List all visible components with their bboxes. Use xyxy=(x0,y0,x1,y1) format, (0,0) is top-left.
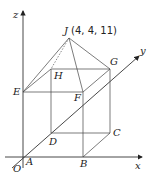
y-axis-label: y xyxy=(139,45,146,56)
edge-jh-hidden xyxy=(51,38,69,69)
point-b-label: B xyxy=(79,158,87,169)
apex-label: J(4, 4, 11) xyxy=(62,25,117,36)
edge-je xyxy=(23,38,69,92)
point-d-label: D xyxy=(48,136,57,147)
edge-fg xyxy=(83,69,110,92)
edge-bc xyxy=(83,133,110,157)
x-axis-label: x xyxy=(135,160,141,171)
edge-eh xyxy=(23,69,51,92)
diagram-canvas: z y x O J(4, 4, 11) A B C D E F G H xyxy=(0,0,149,176)
y-axis xyxy=(12,56,139,168)
z-axis-label: z xyxy=(12,9,19,20)
point-c-label: C xyxy=(113,127,121,138)
point-g-label: G xyxy=(110,56,118,67)
point-e-label: E xyxy=(12,86,21,97)
origin-label: O xyxy=(13,163,21,174)
edge-jf xyxy=(69,38,83,92)
edge-jg xyxy=(69,38,110,69)
point-h-label: H xyxy=(53,70,63,81)
point-f-label: F xyxy=(73,92,82,103)
point-a-label: A xyxy=(25,156,33,167)
